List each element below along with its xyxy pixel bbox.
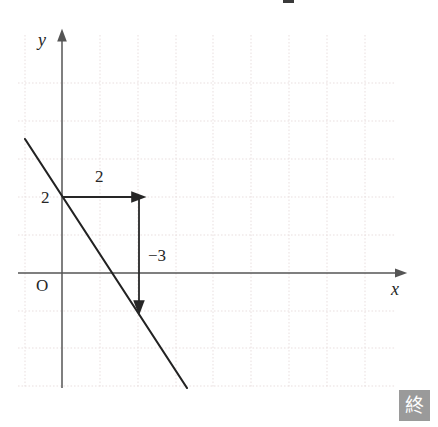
figure-canvas: y x O 2 2 −3 終 [0,0,438,427]
rise-label: −3 [148,246,166,266]
run-label: 2 [95,167,104,187]
y-axis-label: y [38,30,46,51]
grid-lines [18,35,396,388]
end-badge: 終 [399,390,430,421]
y-intercept-label: 2 [41,188,50,208]
coordinate-graph [0,0,438,427]
origin-label: O [36,276,48,296]
x-axis-label: x [391,279,399,300]
